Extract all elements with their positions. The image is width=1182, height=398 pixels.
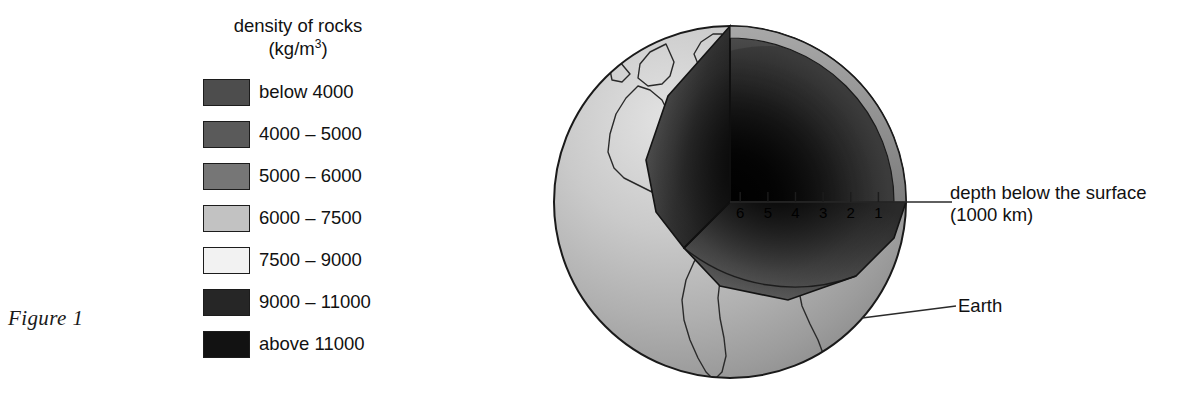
depth-scale-label: depth below the surface (1000 km) <box>950 182 1146 226</box>
legend-swatch <box>203 247 250 274</box>
legend-label: 9000 – 11000 <box>259 291 371 313</box>
legend-label: 7500 – 9000 <box>259 249 362 271</box>
legend-row: 4000 – 5000 <box>196 113 416 155</box>
earth-label: Earth <box>958 295 1002 317</box>
depth-scale-number: 6 <box>736 204 744 221</box>
legend-row: 7500 – 9000 <box>196 239 416 281</box>
legend-label: 5000 – 6000 <box>259 165 362 187</box>
depth-scale-number: 1 <box>874 204 882 221</box>
legend-label: below 4000 <box>259 81 354 103</box>
depth-scale-number: 2 <box>847 204 855 221</box>
legend: density of rocks (kg/m3) below 40004000 … <box>196 14 416 365</box>
legend-label: 6000 – 7500 <box>259 207 362 229</box>
depth-label-line2: (1000 km) <box>950 204 1033 225</box>
legend-swatch <box>203 79 250 106</box>
legend-row: 6000 – 7500 <box>196 197 416 239</box>
legend-row: above 11000 <box>196 323 416 365</box>
legend-title: density of rocks (kg/m3) <box>200 14 396 60</box>
figure-caption: Figure 1 <box>8 306 83 331</box>
legend-row: 9000 – 11000 <box>196 281 416 323</box>
legend-title-line1: density of rocks <box>234 15 363 36</box>
legend-swatch <box>203 205 250 232</box>
legend-label: above 11000 <box>259 333 365 355</box>
legend-swatch <box>203 289 250 316</box>
legend-swatch <box>203 163 250 190</box>
depth-scale-number: 3 <box>819 204 827 221</box>
legend-swatch <box>203 121 250 148</box>
earth-diagram: 654321 depth below the surface (1000 km)… <box>470 0 1182 398</box>
figure-container: Figure 1 density of rocks (kg/m3) below … <box>0 0 1182 398</box>
legend-row: 5000 – 6000 <box>196 155 416 197</box>
depth-label-line1: depth below the surface <box>950 182 1146 203</box>
depth-scale-number: 4 <box>791 204 799 221</box>
legend-row: below 4000 <box>196 71 416 113</box>
depth-scale-number: 5 <box>764 204 772 221</box>
legend-units-prefix: (kg/m <box>268 38 314 59</box>
legend-label: 4000 – 5000 <box>259 123 362 145</box>
legend-title-line2: (kg/m3) <box>200 37 396 60</box>
earth-leader <box>862 306 956 318</box>
earth-leader-line <box>862 306 956 318</box>
legend-swatch <box>203 331 250 358</box>
legend-items: below 40004000 – 50005000 – 60006000 – 7… <box>196 71 416 365</box>
legend-units-suffix: ) <box>321 38 327 59</box>
